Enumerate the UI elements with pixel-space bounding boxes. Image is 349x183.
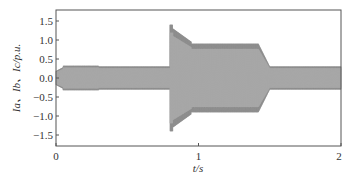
y-tick-label: −1.0 — [33, 110, 53, 122]
x-tick-label: 1 — [196, 150, 202, 162]
y-tick-label: 1.5 — [39, 15, 53, 27]
current-waveform-chart: 1.51.00.50.0−0.5−1.0−1.5 012 t/s Ia、Ib、I… — [0, 0, 349, 183]
plot-area — [56, 25, 341, 131]
x-tick-label: 2 — [336, 150, 342, 162]
x-axis-label: t/s — [193, 162, 203, 174]
y-axis: 1.51.00.50.0−0.5−1.0−1.5 — [33, 15, 59, 141]
y-tick-label: 0.0 — [39, 72, 53, 84]
x-tick-label: 0 — [53, 150, 59, 162]
y-tick-label: 0.5 — [39, 53, 53, 65]
y-tick-label: −1.5 — [33, 129, 53, 141]
y-tick-label: −0.5 — [33, 91, 53, 103]
y-axis-label: Ia、Ib、Ic/p.u. — [10, 44, 22, 113]
y-tick-label: 1.0 — [39, 34, 53, 46]
